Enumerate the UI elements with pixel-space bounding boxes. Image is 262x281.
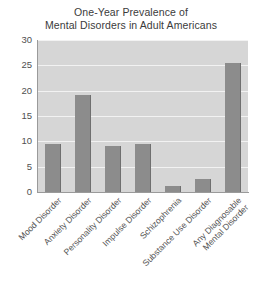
bar-chart: One-Year Prevalence of Mental Disorders … [0, 0, 262, 281]
y-axis-tick-label: 15 [2, 111, 32, 121]
x-axis-labels: Mood DisorderAnxiety DisorderPersonality… [0, 192, 262, 281]
bar [135, 144, 151, 192]
bar [75, 95, 91, 192]
chart-title-line-1: One-Year Prevalence of [0, 6, 262, 19]
bars-layer [38, 40, 248, 192]
y-axis-tick-label: 30 [2, 35, 32, 45]
y-axis-tick-label: 10 [2, 136, 32, 146]
y-axis-tick-label: 5 [2, 162, 32, 172]
chart-title-line-2: Mental Disorders in Adult Americans [0, 19, 262, 32]
bar [105, 146, 121, 192]
y-axis-tick-label: 20 [2, 86, 32, 96]
bar [195, 179, 211, 192]
y-axis-tick-label: 25 [2, 60, 32, 70]
bar [45, 144, 61, 192]
chart-title: One-Year Prevalence of Mental Disorders … [0, 6, 262, 32]
bar [225, 63, 241, 192]
